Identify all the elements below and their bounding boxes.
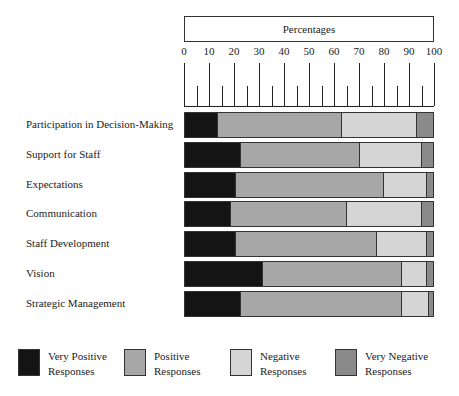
x-minor-tick [322, 86, 323, 106]
bar-segment [426, 232, 433, 256]
bar-segment [426, 262, 433, 286]
x-major-tick [409, 63, 410, 106]
x-minor-tick [197, 86, 198, 106]
x-axis-baseline [184, 106, 434, 107]
legend-label-line: Positive [154, 349, 229, 364]
bar-segment [359, 143, 421, 167]
bar-segment [230, 202, 347, 226]
bar-segment [240, 292, 401, 316]
x-minor-tick [347, 86, 348, 106]
x-major-tick [334, 63, 335, 106]
x-tick-label: 80 [379, 45, 390, 57]
x-major-tick [184, 63, 185, 106]
legend-swatch [18, 349, 40, 376]
x-tick-label: 40 [279, 45, 290, 57]
x-minor-tick [222, 86, 223, 106]
legend-item: Very NegativeResponses [335, 349, 440, 379]
x-major-tick [284, 63, 285, 106]
bar-segment [401, 292, 428, 316]
x-minor-tick [372, 86, 373, 106]
legend-label-line: Responses [260, 364, 335, 379]
bar-segment [376, 232, 426, 256]
legend-swatch [335, 349, 357, 376]
x-tick-label: 90 [404, 45, 415, 57]
stacked-bar [184, 291, 434, 317]
stacked-bar [184, 112, 434, 138]
bar-segment [185, 292, 240, 316]
bar-segment [185, 173, 235, 197]
stacked-bar [184, 172, 434, 198]
x-tick-label: 50 [304, 45, 315, 57]
x-major-tick [234, 63, 235, 106]
bar-segment [262, 262, 401, 286]
legend-label-line: Responses [365, 364, 440, 379]
x-tick-label: 0 [181, 45, 187, 57]
axis-title: Percentages [283, 23, 336, 35]
x-tick-label: 100 [426, 45, 443, 57]
axis-title-box: Percentages [184, 16, 434, 42]
x-minor-tick [422, 86, 423, 106]
bar-segment [421, 143, 433, 167]
stacked-bar [184, 231, 434, 257]
bar-segment [235, 232, 376, 256]
bar-segment [383, 173, 425, 197]
legend-swatch [230, 349, 252, 376]
x-major-tick [259, 63, 260, 106]
category-label: Participation in Decision-Making [26, 118, 173, 130]
bar-segment [426, 173, 433, 197]
x-major-tick [434, 63, 435, 106]
x-major-tick [359, 63, 360, 106]
x-minor-tick [247, 86, 248, 106]
bar-segment [240, 143, 359, 167]
bar-segment [185, 113, 217, 137]
bar-segment [185, 232, 235, 256]
x-tick-label: 30 [254, 45, 265, 57]
legend-label-line: Very Negative [365, 349, 440, 364]
x-minor-tick [397, 86, 398, 106]
bar-segment [235, 173, 384, 197]
x-tick-label: 10 [204, 45, 215, 57]
x-major-tick [309, 63, 310, 106]
category-label: Communication [26, 207, 97, 219]
bar-segment [346, 202, 420, 226]
x-minor-tick [297, 86, 298, 106]
legend-label-line: Responses [154, 364, 229, 379]
legend-label: Very NegativeResponses [365, 349, 440, 379]
bar-segment [185, 143, 240, 167]
bar-segment [401, 262, 426, 286]
legend-item: NegativeResponses [230, 349, 335, 379]
x-tick-label: 20 [229, 45, 240, 57]
bar-segment [217, 113, 341, 137]
bar-segment [185, 262, 262, 286]
stacked-bar [184, 201, 434, 227]
legend-label-line: Responses [48, 364, 123, 379]
category-label: Expectations [26, 178, 83, 190]
bar-segment [185, 202, 230, 226]
legend-label: NegativeResponses [260, 349, 335, 379]
legend-item: Very PositiveResponses [18, 349, 123, 379]
legend-item: PositiveResponses [124, 349, 229, 379]
stacked-bar [184, 261, 434, 287]
legend-label: Very PositiveResponses [48, 349, 123, 379]
category-label: Strategic Management [26, 297, 125, 309]
x-major-tick [384, 63, 385, 106]
stacked-bar [184, 142, 434, 168]
bar-segment [416, 113, 433, 137]
legend-label-line: Negative [260, 349, 335, 364]
x-tick-label: 60 [329, 45, 340, 57]
legend-label-line: Very Positive [48, 349, 123, 364]
legend-label: PositiveResponses [154, 349, 229, 379]
legend-swatch [124, 349, 146, 376]
x-minor-tick [272, 86, 273, 106]
category-label: Staff Development [26, 237, 109, 249]
category-label: Vision [26, 267, 55, 279]
bar-segment [341, 113, 415, 137]
bar-segment [428, 292, 433, 316]
x-tick-label: 70 [354, 45, 365, 57]
x-major-tick [209, 63, 210, 106]
category-label: Support for Staff [26, 148, 100, 160]
bar-segment [421, 202, 433, 226]
